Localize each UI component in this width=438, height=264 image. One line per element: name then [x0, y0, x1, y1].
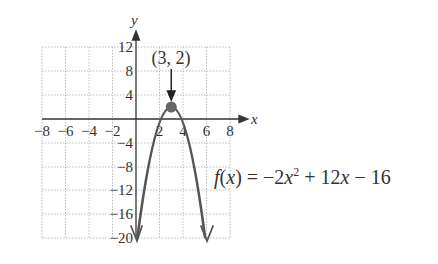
y-tick: −4: [117, 135, 133, 151]
parabola-graph: x y −8 −6 −4 −2 2 4 6 8 12 8 4 −4 −8 −12…: [0, 0, 438, 264]
formula-term1: = −2: [242, 166, 285, 188]
formula-term3: − 16: [349, 166, 390, 188]
y-axis-arrow-icon: [133, 31, 140, 40]
y-tick: −12: [110, 182, 133, 198]
y-tick-labels: 12 8 4 −4 −8 −12 −16 −20: [110, 39, 134, 246]
y-tick: −8: [117, 159, 133, 175]
formula-x: x: [226, 166, 235, 188]
parabola-curve: [138, 107, 206, 237]
y-tick: −20: [110, 230, 133, 246]
vertex-label: (3, 2): [152, 48, 191, 69]
vertex-point: [166, 102, 177, 113]
x-tick-labels: −8 −6 −4 −2 2 4 6 8: [34, 123, 234, 139]
formula-x1: x: [284, 166, 293, 188]
x-axis-arrow-icon: [239, 116, 248, 123]
formula-term2: + 12: [299, 166, 340, 188]
down-arrow-icon: [168, 91, 176, 100]
y-tick: −16: [110, 206, 134, 222]
y-tick: 12: [118, 39, 133, 55]
x-tick: −6: [58, 123, 74, 139]
x-tick: −8: [34, 123, 50, 139]
y-tick: 8: [126, 63, 134, 79]
function-formula: f(x) = −2x2 + 12x − 16: [214, 165, 391, 189]
x-tick: 6: [203, 123, 211, 139]
y-axis-label: y: [129, 12, 138, 28]
x-tick: −4: [81, 123, 97, 139]
curve-end-arrows: [131, 226, 213, 241]
y-tick: 4: [126, 87, 134, 103]
formula-close-paren: ): [235, 166, 242, 188]
x-tick: 8: [226, 123, 234, 139]
x-axis-label: x: [250, 111, 258, 127]
vertex-annotation-arrow: [168, 69, 176, 100]
